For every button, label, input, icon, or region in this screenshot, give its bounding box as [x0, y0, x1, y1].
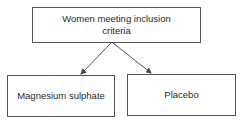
node-magnesium-sulphate: Magnesium sulphate — [7, 75, 115, 117]
arrow-to-magnesium — [81, 43, 111, 74]
node-label: Magnesium sulphate — [17, 90, 105, 102]
node-placebo: Placebo — [127, 74, 236, 116]
node-label: Women meeting inclusion criteria — [52, 13, 182, 37]
node-label: Placebo — [164, 89, 198, 101]
node-inclusion-criteria: Women meeting inclusion criteria — [32, 7, 201, 43]
arrow-to-placebo — [113, 43, 151, 73]
